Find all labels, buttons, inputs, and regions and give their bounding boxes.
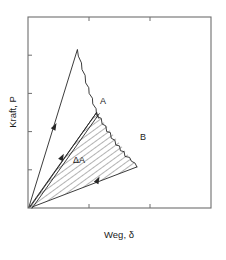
label-delta-area: ΔA xyxy=(73,155,85,165)
label-point-a: A xyxy=(100,96,106,106)
x-axis-title: Weg, δ xyxy=(104,229,134,240)
label-point-b: B xyxy=(140,132,146,142)
y-axis-title: Kraft, P xyxy=(7,96,18,128)
figure-container: A B ΔA Weg, δ Kraft, P xyxy=(0,0,226,260)
force-displacement-plot: A B ΔA Weg, δ Kraft, P xyxy=(0,0,226,260)
